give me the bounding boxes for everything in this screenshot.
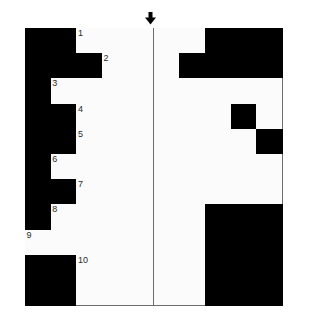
- grid-cell[interactable]: [102, 154, 129, 180]
- grid-cell[interactable]: [231, 179, 258, 205]
- grid-cell[interactable]: [256, 78, 283, 104]
- grid-cell[interactable]: [205, 129, 232, 155]
- grid-cell[interactable]: [154, 204, 181, 230]
- grid-cell[interactable]: [76, 230, 103, 256]
- crossword-grid[interactable]: 12345678910: [25, 28, 282, 305]
- grid-cell-block: [25, 280, 52, 306]
- grid-cell[interactable]: 2: [102, 53, 129, 79]
- clue-number: 10: [78, 255, 88, 266]
- clue-number: 5: [78, 129, 83, 140]
- grid-cell[interactable]: 10: [76, 255, 103, 281]
- grid-cell[interactable]: [51, 230, 78, 256]
- grid-cell[interactable]: 1: [76, 28, 103, 54]
- grid-cell[interactable]: [128, 129, 155, 155]
- grid-cell[interactable]: [128, 230, 155, 256]
- grid-cell[interactable]: [102, 179, 129, 205]
- clue-number: 3: [52, 78, 57, 89]
- grid-cell[interactable]: [128, 280, 155, 306]
- grid-cell[interactable]: 3: [51, 78, 78, 104]
- grid-cell-block: [25, 255, 52, 281]
- grid-cell-block: [51, 179, 78, 205]
- grid-cell[interactable]: [154, 129, 181, 155]
- grid-cell[interactable]: 9: [25, 230, 52, 256]
- grid-cell[interactable]: [179, 179, 206, 205]
- grid-cell-block: [205, 28, 232, 54]
- grid-cell-block: [256, 280, 283, 306]
- grid-cell[interactable]: [102, 230, 129, 256]
- grid-cell[interactable]: [128, 204, 155, 230]
- grid-cell[interactable]: [179, 78, 206, 104]
- grid-cell[interactable]: [179, 28, 206, 54]
- grid-cell[interactable]: [128, 255, 155, 281]
- grid-cell[interactable]: [128, 53, 155, 79]
- grid-cell-block: [231, 104, 258, 130]
- grid-cell[interactable]: [76, 280, 103, 306]
- grid-cell[interactable]: [205, 154, 232, 180]
- grid-cell[interactable]: [102, 104, 129, 130]
- grid-cell[interactable]: [179, 104, 206, 130]
- grid-cell[interactable]: [231, 129, 258, 155]
- grid-cell-block: [25, 104, 52, 130]
- clue-number: 9: [27, 230, 32, 241]
- grid-cell[interactable]: 8: [51, 204, 78, 230]
- grid-cell[interactable]: [179, 230, 206, 256]
- grid-cell[interactable]: [154, 154, 181, 180]
- grid-cell-block: [231, 280, 258, 306]
- grid-cell[interactable]: [179, 255, 206, 281]
- grid-cell[interactable]: [179, 204, 206, 230]
- grid-cell[interactable]: [128, 78, 155, 104]
- clue-number: 1: [78, 28, 83, 39]
- grid-cell[interactable]: [179, 280, 206, 306]
- grid-cell-block: [231, 255, 258, 281]
- grid-cell[interactable]: [154, 255, 181, 281]
- grid-cell-block: [205, 230, 232, 256]
- grid-cell-block: [256, 255, 283, 281]
- grid-cell-block: [205, 255, 232, 281]
- grid-cell[interactable]: 5: [76, 129, 103, 155]
- grid-cell[interactable]: [231, 154, 258, 180]
- grid-cell-block: [231, 28, 258, 54]
- grid-cell[interactable]: [154, 78, 181, 104]
- grid-cell[interactable]: [76, 154, 103, 180]
- grid-cell-block: [25, 129, 52, 155]
- grid-cell[interactable]: [76, 78, 103, 104]
- grid-cell[interactable]: [154, 179, 181, 205]
- grid-cell[interactable]: [154, 104, 181, 130]
- grid-cell[interactable]: [256, 154, 283, 180]
- grid-cell-block: [205, 53, 232, 79]
- grid-cell[interactable]: [256, 104, 283, 130]
- grid-cell[interactable]: [205, 78, 232, 104]
- grid-cell[interactable]: [256, 179, 283, 205]
- clue-number: 2: [104, 53, 109, 64]
- down-arrow-icon: [144, 12, 157, 25]
- grid-cell[interactable]: [102, 78, 129, 104]
- grid-cell[interactable]: [154, 28, 181, 54]
- grid-cell[interactable]: [205, 104, 232, 130]
- grid-cell[interactable]: [128, 179, 155, 205]
- grid-cell[interactable]: [128, 104, 155, 130]
- grid-cell[interactable]: 4: [76, 104, 103, 130]
- grid-cell[interactable]: [102, 255, 129, 281]
- grid-cell[interactable]: [128, 154, 155, 180]
- grid-cell[interactable]: [154, 280, 181, 306]
- grid-cell[interactable]: [179, 154, 206, 180]
- grid-cell-block: [256, 129, 283, 155]
- grid-cell-block: [51, 255, 78, 281]
- grid-cell[interactable]: [231, 78, 258, 104]
- grid-cell-block: [25, 53, 52, 79]
- grid-cell[interactable]: [102, 129, 129, 155]
- grid-cell[interactable]: [128, 28, 155, 54]
- grid-cell-block: [256, 28, 283, 54]
- grid-cell[interactable]: [102, 204, 129, 230]
- clue-number: 7: [78, 179, 83, 190]
- grid-cell[interactable]: [205, 179, 232, 205]
- grid-cell[interactable]: 7: [76, 179, 103, 205]
- grid-cell[interactable]: [102, 28, 129, 54]
- grid-cell[interactable]: 6: [51, 154, 78, 180]
- grid-cell[interactable]: [154, 230, 181, 256]
- grid-cell[interactable]: [102, 280, 129, 306]
- grid-cell[interactable]: [179, 129, 206, 155]
- grid-cell-block: [51, 104, 78, 130]
- grid-cell[interactable]: [76, 204, 103, 230]
- grid-cell[interactable]: [154, 53, 181, 79]
